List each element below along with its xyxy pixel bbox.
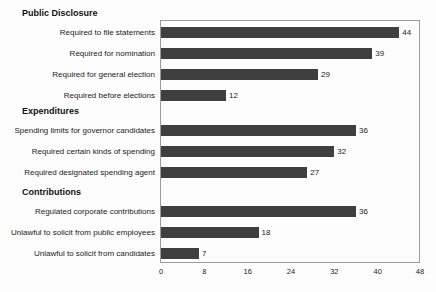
bar-value-label: 18: [262, 222, 271, 243]
bar-track: 39: [161, 43, 420, 64]
section-header-public-disclosure: Public Disclosure: [22, 6, 98, 20]
bar: [161, 167, 307, 178]
bar-track: 36: [161, 120, 420, 141]
bar-category-label: Required to file statements: [0, 22, 155, 43]
bar-value-label: 44: [402, 22, 411, 43]
bar: [161, 206, 356, 217]
bar-category-label: Regulated corporate contributions: [0, 201, 155, 222]
bar-value-label: 27: [310, 162, 319, 183]
bar: [161, 48, 372, 59]
bar-track: 44: [161, 22, 420, 43]
bar: [161, 27, 399, 38]
bar: [161, 146, 334, 157]
bar-category-label: Required for nomination: [0, 43, 155, 64]
bar: [161, 227, 259, 238]
bar-category-label: Unlawful to solicit from public employee…: [0, 222, 155, 243]
bar-row: Required certain kinds of spending 32: [0, 141, 436, 162]
bar-row: Unlawful to solicit from public employee…: [0, 222, 436, 243]
x-axis-tick-label: 32: [324, 267, 344, 276]
bar-category-label: Spending limits for governor candidates: [0, 120, 155, 141]
bar-value-label: 12: [229, 85, 238, 106]
bar-track: 7: [161, 243, 420, 264]
bar: [161, 125, 356, 136]
x-axis-tick-label: 48: [410, 267, 430, 276]
bar-track: 32: [161, 141, 420, 162]
bar-value-label: 39: [375, 43, 384, 64]
bar-category-label: Unlawful to solicit from candidates: [0, 243, 155, 264]
bar-category-label: Required designated spending agent: [0, 162, 155, 183]
section-header-expenditures: Expenditures: [22, 104, 79, 118]
bar-track: 27: [161, 162, 420, 183]
bar-track: 29: [161, 64, 420, 85]
bar-row: Required designated spending agent 27: [0, 162, 436, 183]
bar-category-label: Required for general election: [0, 64, 155, 85]
bar-value-label: 36: [359, 201, 368, 222]
bar-row: Required for general election 29: [0, 64, 436, 85]
bar-value-label: 7: [202, 243, 206, 264]
x-axis-tick-label: 24: [281, 267, 301, 276]
bar-row: Required for nomination 39: [0, 43, 436, 64]
bar-value-label: 36: [359, 120, 368, 141]
bar-row: Regulated corporate contributions 36: [0, 201, 436, 222]
bar-row: Required before elections 12: [0, 85, 436, 106]
bar-row: Spending limits for governor candidates …: [0, 120, 436, 141]
x-axis-tick-label: 16: [238, 267, 258, 276]
bar-value-label: 29: [321, 64, 330, 85]
bar-row: Unlawful to solicit from candidates 7: [0, 243, 436, 264]
bar-track: 36: [161, 201, 420, 222]
x-axis-tick-label: 0: [151, 267, 171, 276]
bar-track: 12: [161, 85, 420, 106]
bar: [161, 90, 226, 101]
bar-category-label: Required before elections: [0, 85, 155, 106]
x-axis-tick-label: 40: [368, 267, 388, 276]
bar-category-label: Required certain kinds of spending: [0, 141, 155, 162]
bar-track: 18: [161, 222, 420, 243]
bar-value-label: 32: [337, 141, 346, 162]
bar: [161, 69, 318, 80]
section-header-contributions: Contributions: [22, 185, 81, 199]
bar: [161, 248, 199, 259]
x-axis-tick-label: 8: [194, 267, 214, 276]
bar-row: Required to file statements 44: [0, 22, 436, 43]
bar-chart: Public Disclosure Required to file state…: [0, 0, 436, 292]
